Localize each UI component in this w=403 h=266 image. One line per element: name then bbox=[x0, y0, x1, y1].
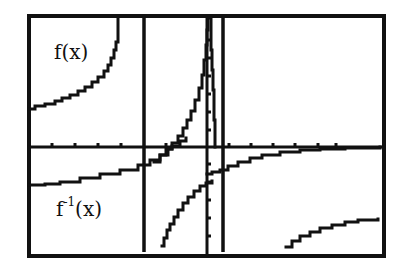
label-finv-exponent: -1 bbox=[63, 195, 75, 209]
label-f-text: f(x) bbox=[54, 40, 88, 64]
label-finv-suffix: (x) bbox=[75, 197, 102, 221]
label-f-inverse-of-x: f-1(x) bbox=[56, 198, 102, 219]
label-f-of-x: f(x) bbox=[54, 42, 88, 62]
